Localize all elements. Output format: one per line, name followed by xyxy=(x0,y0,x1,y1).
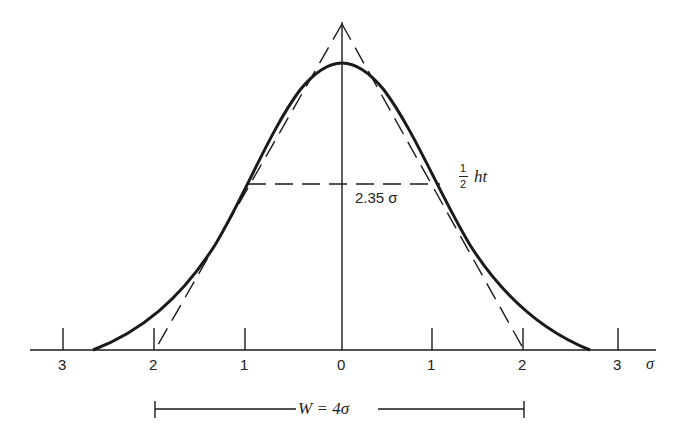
half-fraction-numerator: 1 xyxy=(458,163,468,174)
base-width-label: W = 4σ xyxy=(298,400,349,417)
fwhm-label: 2.35 σ xyxy=(355,190,398,205)
half-fraction-bar xyxy=(459,176,468,177)
tick-label: 3 xyxy=(58,357,66,372)
tick-label: 1 xyxy=(427,357,435,372)
height-abbrev-label: ht xyxy=(474,168,487,185)
triangle-approximation xyxy=(155,24,524,350)
tick-label: 2 xyxy=(149,357,157,372)
axis-ticks xyxy=(63,328,618,350)
tick-label: 3 xyxy=(613,357,621,372)
tick-label: 0 xyxy=(337,357,345,372)
tick-label: 2 xyxy=(518,357,526,372)
tick-label: 1 xyxy=(240,357,248,372)
half-fraction-denominator: 2 xyxy=(458,179,468,190)
axis-unit-label: σ xyxy=(646,356,654,372)
